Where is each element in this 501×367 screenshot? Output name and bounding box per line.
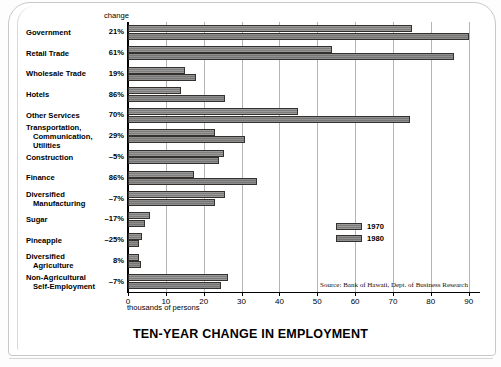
bar-1980-9 [128, 220, 145, 227]
change-percent-10: –25% [96, 235, 124, 244]
change-percent-1: 61% [96, 48, 124, 57]
bar-1980-7 [128, 178, 257, 185]
change-percent-3: 86% [96, 90, 124, 99]
x-axis-tick [128, 292, 129, 296]
bar-1980-3 [128, 95, 225, 102]
legend-swatch-1980 [336, 235, 362, 242]
change-percent-6: –5% [96, 152, 124, 161]
change-percent-11: 8% [96, 256, 124, 265]
change-percent-7: 86% [96, 173, 124, 182]
bar-1980-4 [128, 116, 410, 123]
legend-row-1970[interactable]: 1970 [336, 221, 406, 231]
bar-1970-1 [128, 46, 332, 53]
x-axis-line [127, 292, 480, 293]
x-axis-tick-label: 40 [275, 297, 284, 306]
bar-1970-9 [128, 212, 150, 219]
bar-1970-3 [128, 87, 181, 94]
change-percent-5: 29% [96, 131, 124, 140]
chart-title: TEN-YEAR CHANGE IN EMPLOYMENT [0, 327, 501, 341]
bar-1970-11 [128, 254, 139, 261]
bar-1970-2 [128, 67, 185, 74]
bar-1970-0 [128, 25, 412, 32]
x-axis-tick [355, 292, 356, 296]
bar-1970-8 [128, 191, 225, 198]
gridline [393, 22, 394, 292]
bar-1970-6 [128, 150, 224, 157]
bar-1980-12 [128, 282, 221, 289]
bar-1980-0 [128, 33, 469, 40]
bar-1970-10 [128, 233, 142, 240]
chart-legend: 19701980 [336, 221, 406, 245]
x-axis-caption: thousands of persons [127, 303, 200, 312]
legend-label-1980: 1980 [367, 234, 384, 243]
change-percent-4: 70% [96, 110, 124, 119]
gridline [469, 22, 470, 292]
x-axis-tick [431, 292, 432, 296]
change-percent-12: –7% [96, 277, 124, 286]
legend-swatch-1970 [336, 223, 362, 230]
x-axis-tick [166, 292, 167, 296]
legend-label-1970: 1970 [367, 222, 384, 231]
bar-1980-6 [128, 157, 219, 164]
x-axis-tick [279, 292, 280, 296]
bar-chart: change GovernmentRetail TradeWholesale T… [0, 0, 501, 367]
bar-1980-1 [128, 53, 454, 60]
bar-1970-12 [128, 274, 228, 281]
source-note: Source: Bank of Hawaii, Dept. of Busines… [320, 281, 468, 289]
change-percent-2: 19% [96, 69, 124, 78]
bar-1980-5 [128, 136, 245, 143]
legend-row-1980[interactable]: 1980 [336, 233, 406, 243]
x-axis-tick [242, 292, 243, 296]
x-axis-tick-label: 80 [426, 297, 435, 306]
gridline [279, 22, 280, 292]
change-percent-0: 21% [96, 27, 124, 36]
x-axis-tick-label: 20 [199, 297, 208, 306]
x-axis-tick [204, 292, 205, 296]
gridline [317, 22, 318, 292]
x-axis-tick-label: 70 [388, 297, 397, 306]
gridline [355, 22, 356, 292]
change-percent-8: –7% [96, 194, 124, 203]
change-column-header: change [104, 11, 129, 20]
change-percent-9: –17% [96, 214, 124, 223]
x-axis-tick [317, 292, 318, 296]
bar-1980-11 [128, 261, 141, 268]
bar-1980-8 [128, 199, 215, 206]
gridline [431, 22, 432, 292]
x-axis-tick-label: 30 [237, 297, 246, 306]
bar-1970-5 [128, 129, 215, 136]
x-axis-tick-label: 90 [464, 297, 473, 306]
x-axis-tick-label: 60 [351, 297, 360, 306]
bar-1980-10 [128, 240, 139, 247]
gridline [242, 22, 243, 292]
x-axis-tick [393, 292, 394, 296]
bar-1980-2 [128, 74, 196, 81]
bar-1970-4 [128, 108, 298, 115]
plot-area: 0102030405060708090 [128, 22, 480, 292]
page-canvas: change GovernmentRetail TradeWholesale T… [0, 0, 501, 367]
bar-1970-7 [128, 171, 194, 178]
x-axis-tick-label: 50 [313, 297, 322, 306]
change-percent-column: 21%61%19%86%70%29%–5%86%–7%–17%–25%8%–7% [96, 22, 124, 292]
x-axis-tick [469, 292, 470, 296]
